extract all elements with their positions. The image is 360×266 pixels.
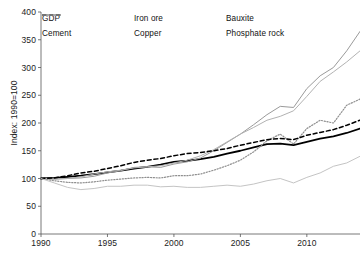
legend-label: Phosphate rock (226, 29, 284, 38)
series-line-copper (41, 120, 360, 178)
legend-label: Bauxite (226, 14, 254, 23)
legend-label: Cement (42, 29, 71, 38)
chart-legend: GDPIron oreBauxiteCementCopperPhosphate … (42, 11, 272, 41)
series-line-iron-ore (41, 31, 360, 179)
legend-line-swatch (42, 11, 61, 19)
legend-item-copper[interactable]: Copper (134, 29, 226, 38)
legend-item-phosphate-rock[interactable]: Phosphate rock (226, 29, 284, 38)
legend-item-bauxite[interactable]: Bauxite (226, 14, 284, 23)
line-chart: Index: 1990=100 050100150200250300350400… (0, 0, 360, 266)
legend-label: Copper (134, 29, 161, 38)
legend-item-cement[interactable]: Cement (42, 29, 134, 38)
legend-item-iron-ore[interactable]: Iron ore (134, 14, 226, 23)
series-line-gdp (41, 129, 360, 179)
legend-label: Iron ore (134, 14, 163, 23)
series-line-phosphate-rock (41, 156, 360, 189)
